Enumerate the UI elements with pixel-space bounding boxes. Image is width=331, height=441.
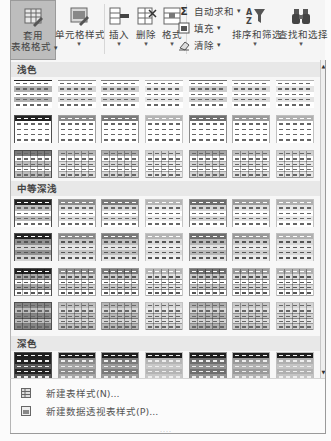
- table-style-thumbnail[interactable]: [101, 115, 139, 143]
- table-style-thumbnail[interactable]: [58, 80, 96, 108]
- table-style-thumbnail[interactable]: [189, 80, 227, 108]
- table-style-thumbnail[interactable]: [145, 233, 183, 261]
- table-style-thumbnail[interactable]: [101, 199, 139, 227]
- thumbnail-gridline: [205, 303, 206, 329]
- table-style-thumbnail[interactable]: [14, 352, 52, 380]
- thumbnail-row: [232, 102, 270, 108]
- table-style-thumbnail[interactable]: [145, 352, 183, 380]
- table-style-thumbnail[interactable]: [145, 80, 183, 108]
- thumbnail-row: [102, 290, 138, 296]
- table-style-thumbnail[interactable]: [101, 233, 139, 261]
- thumbnail-row: [276, 102, 314, 108]
- table-style-thumbnail[interactable]: [232, 352, 270, 380]
- table-style-thumbnail[interactable]: [276, 115, 314, 143]
- table-style-thumbnail[interactable]: [276, 352, 314, 380]
- table-style-thumbnail[interactable]: [276, 233, 314, 261]
- table-style-thumbnail[interactable]: [14, 302, 52, 330]
- table-style-thumbnail[interactable]: [232, 80, 270, 108]
- table-style-thumbnail[interactable]: [232, 233, 270, 261]
- thumbnail-gridline: [175, 269, 176, 295]
- table-style-thumbnail[interactable]: [14, 268, 52, 296]
- thumbnail-gridline: [30, 303, 31, 329]
- thumbnail-gridline: [255, 151, 256, 177]
- delete-button[interactable]: 删除 ▾: [133, 0, 159, 58]
- fill-button[interactable]: 填充 ▾: [178, 21, 221, 35]
- table-style-thumbnail[interactable]: [58, 150, 96, 178]
- table-style-thumbnail[interactable]: [145, 115, 183, 143]
- insert-cells-icon: [108, 6, 130, 26]
- sort-filter-button[interactable]: A Z 排序和筛选 ▾: [232, 0, 278, 58]
- thumbnail-gridline: [197, 269, 198, 295]
- svg-text:A: A: [246, 8, 253, 17]
- format-as-table-button[interactable]: 套用 表格格式 ▾: [10, 0, 56, 60]
- table-style-thumbnail[interactable]: [189, 115, 227, 143]
- thumbnail-row: [59, 255, 95, 261]
- thumbnail-gridline: [37, 151, 38, 177]
- table-style-thumbnail[interactable]: [58, 352, 96, 380]
- table-style-thumbnail[interactable]: [58, 302, 96, 330]
- thumbnail-gridline: [74, 151, 75, 177]
- table-style-thumbnail[interactable]: [276, 268, 314, 296]
- table-style-thumbnail[interactable]: [145, 199, 183, 227]
- thumbnail-row: [146, 255, 182, 261]
- cell-style-icon: [68, 6, 90, 26]
- table-style-thumbnail[interactable]: [189, 199, 227, 227]
- table-style-thumbnail[interactable]: [14, 199, 52, 227]
- thumbnail-gridline: [262, 269, 263, 295]
- frame-border: [325, 60, 326, 434]
- table-style-thumbnail[interactable]: [276, 80, 314, 108]
- table-style-thumbnail[interactable]: [101, 80, 139, 108]
- thumbnail-gridline: [248, 269, 249, 295]
- new-table-style-menu-item[interactable]: 新建表样式(N)...: [11, 384, 326, 402]
- chevron-down-icon: ▾: [133, 40, 159, 48]
- table-style-thumbnail[interactable]: [58, 115, 96, 143]
- table-style-thumbnail[interactable]: [101, 150, 139, 178]
- thumbnail-gridline: [284, 269, 285, 295]
- table-style-thumbnail[interactable]: [58, 233, 96, 261]
- format-as-table-label-2: 表格格式 ▾: [11, 41, 55, 54]
- new-pivot-style-menu-item[interactable]: 新建数据透视表样式(P)...: [11, 402, 326, 420]
- table-style-thumbnail[interactable]: [58, 199, 96, 227]
- table-style-thumbnail[interactable]: [189, 352, 227, 380]
- thumbnail-row: [59, 324, 95, 330]
- insert-button[interactable]: 插入 ▾: [106, 0, 132, 58]
- table-style-thumbnail[interactable]: [101, 352, 139, 380]
- thumbnail-gridline: [292, 303, 293, 329]
- table-style-thumbnail[interactable]: [145, 150, 183, 178]
- table-style-thumbnail[interactable]: [232, 115, 270, 143]
- table-style-thumbnail[interactable]: [276, 302, 314, 330]
- table-style-thumbnail[interactable]: [232, 150, 270, 178]
- thumbnail-row: [59, 137, 95, 143]
- table-style-thumbnail[interactable]: [276, 150, 314, 178]
- table-style-thumbnail[interactable]: [189, 233, 227, 261]
- table-style-thumbnail[interactable]: [14, 115, 52, 143]
- table-style-thumbnail[interactable]: [58, 268, 96, 296]
- thumbnail-gridline: [255, 303, 256, 329]
- thumbnail-gridline: [299, 303, 300, 329]
- find-select-button[interactable]: 查找和选择 ▾: [278, 0, 324, 58]
- new-pivot-style-label: 新建数据透视表样式(P)...: [46, 404, 158, 418]
- table-style-thumbnail[interactable]: [101, 302, 139, 330]
- table-style-thumbnail[interactable]: [189, 268, 227, 296]
- thumbnail-row: [277, 137, 313, 143]
- table-style-thumbnail[interactable]: [189, 150, 227, 178]
- table-style-thumbnail[interactable]: [14, 80, 52, 108]
- table-style-thumbnail[interactable]: [145, 302, 183, 330]
- thumbnail-gridline: [37, 269, 38, 295]
- thumbnail-row: [277, 255, 313, 261]
- table-style-thumbnail[interactable]: [145, 268, 183, 296]
- new-pivot-style-icon: [21, 406, 31, 416]
- table-style-thumbnail[interactable]: [101, 268, 139, 296]
- table-style-thumbnail[interactable]: [276, 199, 314, 227]
- thumbnail-gridline: [109, 269, 110, 295]
- thumbnail-gridline: [161, 303, 162, 329]
- table-style-thumbnail[interactable]: [14, 150, 52, 178]
- cell-styles-button[interactable]: 单元格样式 ▾: [55, 0, 103, 58]
- table-style-thumbnail[interactable]: [14, 233, 52, 261]
- table-style-thumbnail[interactable]: [232, 268, 270, 296]
- clear-button[interactable]: 清除 ▾: [178, 38, 221, 52]
- table-style-thumbnail[interactable]: [232, 199, 270, 227]
- table-style-thumbnail[interactable]: [232, 302, 270, 330]
- thumbnail-gridline: [153, 269, 154, 295]
- table-style-thumbnail[interactable]: [189, 302, 227, 330]
